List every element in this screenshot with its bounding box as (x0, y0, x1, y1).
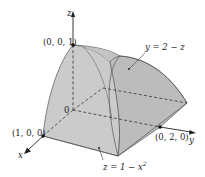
point-0-2-0 (158, 125, 162, 129)
z-axis-label: z (66, 8, 72, 18)
x-intercept-label: (1, 0, 0) (12, 128, 46, 138)
z-intercept-label: (0, 0, 1) (43, 37, 77, 47)
plane-equation-label: y = 2 − z (144, 42, 185, 52)
origin-label: 0 (64, 105, 69, 115)
y-axis-arrow-icon (189, 130, 196, 135)
x-axis-label: x (18, 150, 23, 160)
x-axis (24, 136, 43, 154)
y-axis-label: y (188, 135, 194, 145)
solid-region-diagram: z (0, 0, 1) 0 (1, 0, 0) x (0, 2, 0) y y … (0, 0, 205, 177)
y-intercept-label: (0, 2, 0) (155, 132, 189, 142)
cylinder-equation-exponent: 2 (142, 160, 147, 167)
cylinder-equation-text: z = 1 − x (102, 162, 143, 172)
cylinder-equation-label: z = 1 − x2 (102, 160, 147, 172)
